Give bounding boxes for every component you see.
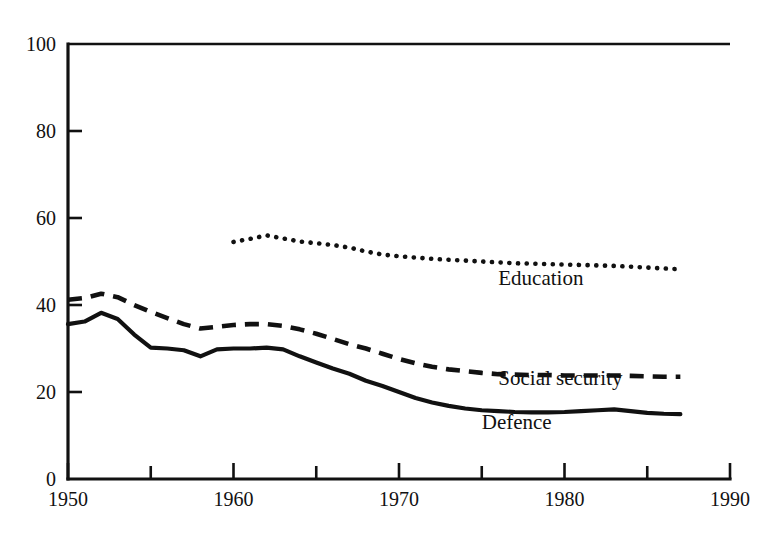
x-axis-tick-labels: 19501960197019801990 — [48, 488, 750, 510]
series-line-education — [234, 235, 681, 269]
y-tick-label-0: 0 — [46, 468, 56, 490]
x-tick-label-1980: 1980 — [545, 488, 585, 510]
series-line-social-security — [68, 294, 680, 377]
series-line-defence — [68, 313, 680, 414]
y-tick-label-40: 40 — [36, 294, 56, 316]
series-label-social-security: Social security — [498, 366, 623, 390]
y-tick-label-80: 80 — [36, 120, 56, 142]
y-tick-label-60: 60 — [36, 207, 56, 229]
chart-container: 020406080100 19501960197019801990 Educat… — [0, 0, 780, 534]
series-label-defence: Defence — [482, 410, 552, 434]
x-tick-label-1970: 1970 — [379, 488, 419, 510]
x-tick-label-1960: 1960 — [214, 488, 254, 510]
line-chart: 020406080100 19501960197019801990 Educat… — [0, 0, 780, 534]
y-axis-tick-labels: 020406080100 — [26, 33, 56, 490]
y-axis-ticks — [68, 131, 82, 392]
y-tick-label-20: 20 — [36, 381, 56, 403]
series-label-education: Education — [498, 266, 584, 290]
x-tick-label-1950: 1950 — [48, 488, 88, 510]
x-axis-ticks — [68, 463, 730, 479]
axis-lines — [68, 44, 730, 479]
x-tick-label-1990: 1990 — [710, 488, 750, 510]
y-tick-label-100: 100 — [26, 33, 56, 55]
